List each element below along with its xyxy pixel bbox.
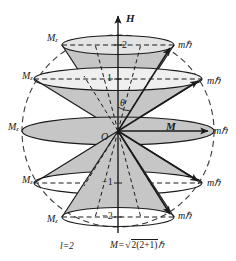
origin-label: O [101,132,108,142]
h-axis-label: H [126,13,135,24]
mh-label-m-plus-2: mℏ [178,40,191,50]
mh-label-m-plus-1: mℏ [207,76,220,86]
mz-label-m-minus-1: Mz [22,175,33,186]
angular-momentum-quantization-figure: H 2 1 −1 −2 O θ M Mz Mz Mz Mz Mz mℏ mℏ m… [0,0,236,261]
mz-sub-plus-2: z [55,36,57,43]
mz-sub-minus-1: z [30,178,32,185]
tick-label-m-plus-2: 2 [122,40,127,50]
mz-label-m-plus-2: Mz [47,33,58,44]
mh-label-m-minus-2: mℏ [178,211,191,221]
mh-label-m-minus-1: mℏ [207,178,220,188]
mz-sub-plus-1: z [30,74,32,81]
mz-label-m-zero: Mz [8,122,19,133]
tick-label-m-plus-1: 1 [107,73,112,83]
radical-symbol: √2(2+1) [124,239,158,250]
mz-sub-zero: z [16,125,18,132]
mz-label-m-minus-2: Mz [47,214,58,225]
caption-magnitude-prefix: M= [110,240,124,250]
caption-magnitude-formula: M=√2(2+1)ℏ [110,239,164,250]
figure-canvas [0,0,236,261]
tick-label-m-minus-1: −1 [102,177,113,187]
m-vector-label: M [166,121,176,132]
mz-label-m-plus-1: Mz [22,71,33,82]
theta-angle-label: θ [120,98,125,108]
mh-label-m-zero: mℏ [214,126,227,136]
caption-magnitude-suffix: ℏ [158,240,164,250]
caption-magnitude-radicand: 2(2+1) [131,239,159,250]
caption-quantum-number: l=2 [60,241,74,251]
tick-label-m-minus-2: −2 [102,211,113,221]
mz-sub-minus-2: z [55,217,57,224]
